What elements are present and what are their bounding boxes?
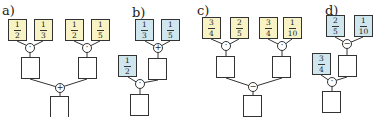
denominator: 2	[15, 32, 20, 40]
fraction-box: 34	[312, 53, 331, 75]
numerator: 1	[168, 21, 173, 29]
denominator: 5	[98, 32, 103, 40]
multiply-operator-icon: ·	[277, 41, 287, 51]
panel-label: a)	[2, 4, 15, 17]
numerator: 1	[142, 21, 147, 29]
answer-box[interactable]	[50, 96, 69, 117]
answer-box[interactable]	[21, 57, 40, 79]
answer-box[interactable]	[243, 95, 262, 117]
answer-box[interactable]	[322, 91, 341, 113]
denominator: 4	[319, 66, 324, 74]
multiply-operator-icon: ·	[135, 79, 145, 89]
multiply-operator-icon: ·	[221, 41, 231, 51]
panel-label: b)	[132, 6, 145, 19]
multiply-operator-icon: ·	[82, 43, 92, 53]
panel-label: c)	[197, 4, 209, 17]
fraction-box: 13	[34, 19, 53, 41]
minus-operator-icon: −	[342, 39, 352, 49]
fraction-box: 15	[91, 19, 110, 41]
fraction-box: 34	[202, 17, 221, 39]
denominator: 2	[125, 68, 130, 76]
answer-box[interactable]	[338, 55, 357, 77]
answer-box[interactable]	[216, 56, 235, 78]
fraction-box: 12	[118, 55, 137, 77]
minus-operator-icon: −	[248, 82, 258, 92]
fraction-box: 110	[354, 15, 373, 37]
denominator: 4	[266, 30, 271, 38]
numerator: 1	[125, 57, 130, 65]
answer-box[interactable]	[148, 58, 167, 80]
denominator: 5	[237, 30, 242, 38]
numerator: 1	[72, 21, 77, 29]
numerator: 1	[15, 21, 20, 29]
numerator: 1	[41, 21, 46, 29]
denominator: 3	[142, 32, 147, 40]
denominator: 3	[41, 32, 46, 40]
numerator: 2	[333, 17, 338, 25]
numerator: 3	[266, 19, 271, 27]
fraction-box: 25	[230, 17, 249, 39]
answer-box[interactable]	[78, 57, 97, 79]
answer-box[interactable]	[272, 56, 291, 78]
denominator: 5	[333, 28, 338, 36]
denominator: 10	[288, 30, 298, 38]
denominator: 10	[359, 28, 369, 36]
denominator: 2	[72, 32, 77, 40]
fraction-box: 12	[65, 19, 84, 41]
plus-operator-icon: +	[55, 83, 65, 93]
numerator: 1	[98, 21, 103, 29]
fraction-box: 110	[283, 17, 302, 39]
numerator: 3	[209, 19, 214, 27]
fraction-box: 34	[259, 17, 278, 39]
answer-box[interactable]	[130, 94, 149, 116]
denominator: 5	[168, 32, 173, 40]
multiply-operator-icon: ·	[327, 77, 337, 87]
fraction-box: 13	[135, 19, 154, 41]
fraction-box: 12	[8, 19, 27, 41]
denominator: 4	[209, 30, 214, 38]
numerator: 3	[319, 55, 324, 63]
fraction-box: 25	[326, 15, 345, 37]
numerator: 1	[361, 17, 366, 25]
plus-operator-icon: +	[153, 43, 163, 53]
multiply-operator-icon: ·	[25, 43, 35, 53]
numerator: 1	[290, 19, 295, 27]
numerator: 2	[237, 19, 242, 27]
fraction-box: 15	[161, 19, 180, 41]
